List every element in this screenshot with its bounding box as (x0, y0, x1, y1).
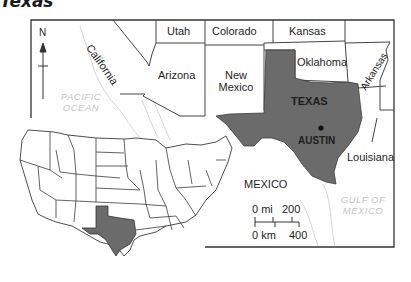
label-oklahoma: Oklahoma (297, 56, 347, 68)
label-pacific-line2: OCEAN (56, 102, 106, 113)
label-utah: Utah (167, 25, 190, 37)
label-gulf-of-mexico: GULF OF MEXICO (337, 194, 389, 216)
label-colorado: Colorado (212, 25, 257, 37)
label-pacific-ocean: PACIFIC OCEAN (56, 91, 106, 113)
label-mexico: MEXICO (244, 178, 287, 190)
label-kansas: Kansas (289, 25, 326, 37)
label-austin: AUSTIN (298, 135, 335, 147)
label-arizona: Arizona (158, 69, 195, 81)
compass-icon (38, 43, 48, 99)
label-louisiana: Louisiana (347, 151, 394, 163)
compass-north-label: N (39, 27, 46, 39)
label-new-mexico-line2: Mexico (212, 81, 260, 93)
scale-mi-zero: 0 mi (252, 203, 273, 215)
label-texas: TEXAS (291, 95, 328, 107)
scale-mi-value: 200 (282, 203, 300, 215)
scale-bar (255, 217, 299, 227)
map-canvas (0, 0, 411, 282)
label-gulf-line1: GULF OF (337, 194, 389, 205)
label-pacific-line1: PACIFIC (56, 91, 106, 102)
label-new-mexico-line1: New (212, 69, 260, 81)
scale-km-zero: 0 km (252, 229, 276, 241)
inset-usa-map (20, 130, 232, 256)
scale-km-value: 400 (289, 229, 307, 241)
label-new-mexico: New Mexico (212, 69, 260, 93)
austin-dot (318, 125, 323, 130)
label-gulf-line2: MEXICO (337, 205, 389, 216)
